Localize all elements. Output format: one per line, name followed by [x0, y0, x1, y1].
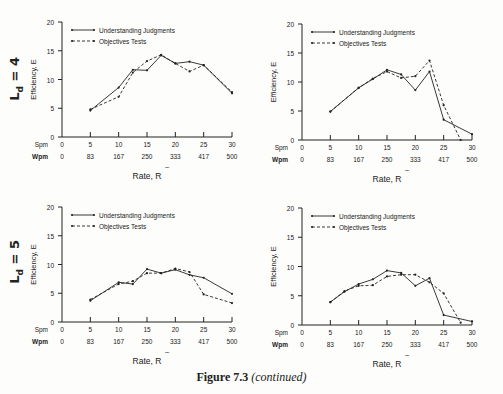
x-tick-label-wpm: 0 [60, 338, 64, 345]
data-point [358, 87, 360, 89]
x-tick-label-wpm: 417 [438, 156, 449, 163]
y-tick-label: 15 [47, 233, 55, 240]
x-axis-label: Rate, R [373, 174, 402, 184]
legend-marker [333, 31, 335, 33]
data-point [146, 60, 148, 62]
data-point [386, 269, 388, 271]
legend-marker [93, 40, 95, 42]
tilde-mark: ~ [405, 166, 410, 175]
data-point [428, 277, 430, 279]
data-point [188, 271, 190, 273]
data-point [460, 139, 462, 141]
x-tick-label-spm: 5 [329, 144, 333, 151]
y-axis-label: Efficiency, E [29, 59, 38, 100]
data-point [372, 278, 374, 280]
x-tick-label-wpm: 83 [87, 153, 95, 160]
y-tick-label: 10 [287, 264, 295, 271]
data-point [203, 277, 205, 279]
legend-marker [93, 29, 95, 31]
legend-marker [311, 42, 313, 44]
data-point [471, 320, 473, 322]
y-tick-label: 5 [290, 293, 294, 300]
x-tick-label-wpm: 0 [300, 156, 304, 163]
data-point [443, 119, 445, 121]
x-tick-label-spm: 10 [115, 141, 123, 148]
x-tick-label-wpm: 333 [170, 153, 181, 160]
y-tick-label: 0 [50, 319, 54, 326]
data-point [443, 314, 445, 316]
y-tick-label: 5 [50, 290, 54, 297]
x-tick-label-spm: 30 [468, 329, 476, 336]
x-tick-label-spm: 15 [143, 326, 151, 333]
legend-label: Objectives Tests [339, 224, 387, 232]
x-tick-label-spm: 15 [383, 329, 391, 336]
ld-symbol: L [7, 92, 22, 100]
ld-value: = 4 [7, 57, 22, 81]
data-point [372, 284, 374, 286]
data-point [174, 267, 176, 269]
data-point [118, 283, 120, 285]
data-point [343, 290, 345, 292]
data-point [414, 75, 416, 77]
x-tick-label-wpm: 250 [382, 341, 393, 348]
y-tick-label: 10 [287, 79, 295, 86]
data-point [460, 322, 462, 324]
legend-label: Objectives Tests [99, 38, 147, 46]
legend-marker [71, 214, 73, 216]
x-tick-label-wpm: 250 [142, 338, 153, 345]
wpm-label: Wpm [32, 338, 48, 346]
x-tick-label-wpm: 167 [113, 338, 124, 345]
data-point [203, 64, 205, 66]
y-tick-label: 0 [290, 137, 294, 144]
data-point [231, 293, 233, 295]
series-understanding-judgments [330, 70, 472, 134]
data-point [372, 77, 374, 79]
y-tick-label: 5 [50, 105, 54, 112]
data-point [414, 274, 416, 276]
data-point [443, 104, 445, 106]
x-tick-label-wpm: 0 [300, 341, 304, 348]
x-tick-label-wpm: 250 [142, 153, 153, 160]
x-tick-label-wpm: 417 [438, 341, 449, 348]
legend-marker [311, 31, 313, 33]
x-tick-label-spm: 25 [200, 326, 208, 333]
x-tick-label-spm: 20 [412, 144, 420, 151]
series-understanding-judgments [330, 271, 472, 322]
row-label-ld4: Ld = 4 [7, 57, 25, 101]
data-point [400, 77, 402, 79]
x-tick-label-spm: 30 [228, 141, 236, 148]
data-point [414, 285, 416, 287]
x-tick-label-wpm: 500 [467, 341, 478, 348]
data-point [132, 72, 134, 74]
x-tick-label-spm: 5 [329, 329, 333, 336]
chart-svg: 05101520005831016715250203332541730500Sp… [0, 195, 251, 385]
data-point [414, 89, 416, 91]
x-tick-label-spm: 20 [172, 141, 180, 148]
x-tick-label-spm: 25 [440, 144, 448, 151]
data-point [146, 268, 148, 270]
wpm-label: Wpm [272, 156, 288, 164]
x-tick-label-spm: 30 [228, 326, 236, 333]
legend-label: Understanding Judgments [99, 27, 176, 35]
x-tick-label-wpm: 417 [198, 153, 209, 160]
legend-marker [93, 225, 95, 227]
x-tick-label-spm: 10 [115, 326, 123, 333]
data-point [443, 292, 445, 294]
series-objectives-tests [330, 275, 460, 323]
x-tick-label-wpm: 0 [60, 153, 64, 160]
y-tick-label: 0 [290, 322, 294, 329]
x-axis-label: Rate, R [133, 171, 162, 181]
y-tick-label: 15 [287, 50, 295, 57]
x-tick-label-spm: 25 [200, 141, 208, 148]
y-tick-label: 0 [50, 134, 54, 141]
ld-subscript: d [15, 269, 25, 275]
figure-caption: Figure 7.3 (continued) [0, 370, 503, 385]
legend-marker [71, 29, 73, 31]
x-tick-label-spm: 0 [300, 329, 304, 336]
chart-top-right: 05101520005831016715250203332541730500Sp… [250, 0, 501, 190]
legend-label: Objectives Tests [99, 223, 147, 231]
tilde-mark: ~ [405, 351, 410, 360]
x-tick-label-spm: 20 [172, 326, 180, 333]
x-tick-label-spm: 0 [300, 144, 304, 151]
x-axis-label: Rate, R [133, 356, 162, 366]
